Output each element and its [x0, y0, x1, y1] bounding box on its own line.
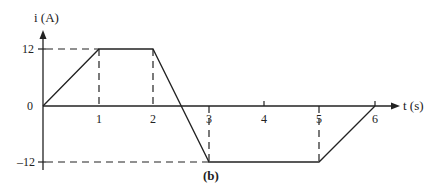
figure-caption: (b) — [203, 168, 219, 183]
x-axis-label: t (s) — [403, 98, 424, 113]
y-axis-label: i (A) — [34, 10, 59, 25]
y-axis-arrow-icon — [40, 30, 47, 39]
x-tick-6: 6 — [372, 112, 378, 126]
y-tick-0: 0 — [27, 99, 33, 113]
x-tick-3: 3 — [206, 112, 212, 126]
x-tick-4: 4 — [261, 112, 267, 126]
x-tick-5: 5 — [316, 112, 322, 126]
x-tick-2: 2 — [150, 112, 156, 126]
y-tick-neg12: –12 — [16, 155, 35, 169]
x-tick-1: 1 — [96, 112, 102, 126]
x-axis-arrow-icon — [391, 103, 400, 110]
y-tick-12: 12 — [22, 42, 34, 56]
current-waveform-chart: i (A) 12 0 –12 1 2 3 4 5 6 t (s) (b) — [0, 0, 441, 190]
